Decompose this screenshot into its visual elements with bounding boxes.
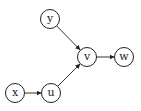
node-u: u [42, 84, 61, 103]
graph-diagram: y v w x u [0, 0, 141, 111]
node-v: v [78, 48, 97, 67]
node-w-label: w [119, 50, 129, 63]
node-w: w [115, 48, 134, 67]
node-u-label: u [47, 86, 54, 99]
node-x: x [6, 84, 25, 103]
edge-u-v [58, 64, 81, 87]
node-y: y [41, 10, 60, 29]
node-x-label: x [12, 86, 19, 99]
edge-y-v [57, 26, 81, 50]
node-y-label: y [46, 12, 54, 25]
node-v-label: v [83, 50, 91, 63]
